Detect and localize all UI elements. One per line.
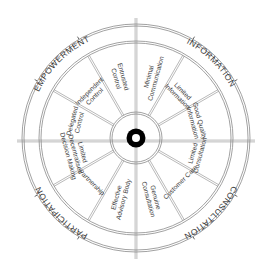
segment-minimal-communication: MinimalCommunication — [139, 53, 165, 101]
quadrant-label-participation: PARTICIPATION — [33, 185, 89, 241]
segment-customer-care: Customer Care — [162, 164, 199, 201]
segment-entrusted-control: EntrustedControl — [109, 62, 130, 93]
hub-hole — [132, 134, 140, 142]
quadrant-label-empowerment: EMPOWERMENT — [32, 33, 92, 93]
center-hub — [127, 129, 146, 148]
segment-genuine-consultation: GenuineConsultation — [141, 179, 164, 218]
participation-wheel-diagram: EMPOWERMENTINFORMATIONCONSULTATIONPARTIC… — [0, 0, 264, 273]
segment-delegated-control: DelegatedControl — [65, 105, 87, 138]
segment-good-quality-information: Good QualityInformation — [185, 101, 209, 143]
segment-effective-advisory-body: EffectiveAdvisory Body — [107, 175, 133, 220]
quadrant-label-consultation: CONSULTATION — [183, 185, 240, 242]
segment-label-line: Customer Care — [162, 164, 199, 201]
